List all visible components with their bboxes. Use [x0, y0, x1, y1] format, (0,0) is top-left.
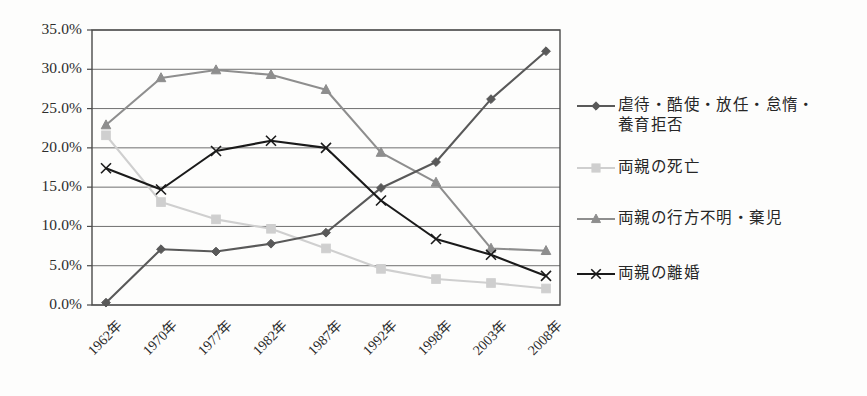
legend-label: 両親の行方不明・棄児	[618, 208, 782, 228]
plot-background	[92, 30, 560, 305]
y-axis-tick-label: 30.0%	[8, 59, 82, 77]
legend-marker-icon	[576, 159, 616, 177]
marker-square	[322, 244, 331, 253]
y-axis-tick-label: 5.0%	[8, 256, 82, 274]
legend-marker-icon	[576, 265, 616, 283]
marker-square	[102, 131, 111, 140]
marker-square	[212, 215, 221, 224]
y-axis-tick-label: 20.0%	[8, 138, 82, 156]
y-axis-tick-label: 15.0%	[8, 177, 82, 195]
y-axis-tick-label: 10.0%	[8, 216, 82, 234]
y-axis-tick-label: 35.0%	[8, 20, 82, 38]
marker-square	[377, 265, 386, 274]
legend-label: 両親の死亡	[618, 157, 700, 177]
marker-square	[592, 164, 600, 172]
legend-marker-icon	[576, 210, 616, 228]
legend-label: 虐待・酷使・放任・怠惰・ 養育拒否	[618, 95, 815, 135]
marker-square	[432, 275, 441, 284]
legend-item[interactable]: 両親の行方不明・棄児	[576, 208, 782, 228]
legend-item[interactable]: 虐待・酷使・放任・怠惰・ 養育拒否	[576, 95, 815, 135]
legend-item[interactable]: 両親の死亡	[576, 157, 700, 177]
marker-square	[542, 284, 551, 293]
y-axis-tick-label: 25.0%	[8, 99, 82, 117]
chart-page: 35.0%30.0%25.0%20.0%15.0%10.0%5.0%0.0% 1…	[0, 0, 867, 396]
legend-marker-icon	[576, 97, 616, 115]
marker-square	[267, 224, 276, 233]
marker-square	[157, 198, 166, 207]
legend-label: 両親の離婚	[618, 263, 700, 283]
marker-square	[487, 279, 496, 288]
marker-diamond	[592, 102, 600, 110]
line-chart: 35.0%30.0%25.0%20.0%15.0%10.0%5.0%0.0% 1…	[0, 0, 867, 396]
legend-item[interactable]: 両親の離婚	[576, 263, 700, 283]
y-axis-tick-label: 0.0%	[8, 295, 82, 313]
